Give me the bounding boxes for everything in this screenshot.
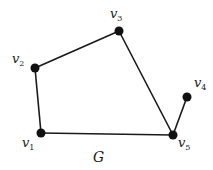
node-v3 xyxy=(115,27,124,36)
node-label-v1: v1 xyxy=(22,135,34,152)
node-v1 xyxy=(37,129,46,138)
edge-v3-v5 xyxy=(119,31,173,135)
node-v4 xyxy=(183,93,192,102)
node-label-v3: v3 xyxy=(110,6,122,23)
graph-title: G xyxy=(93,149,104,165)
node-v5 xyxy=(169,131,178,140)
node-label-v2: v2 xyxy=(12,51,24,68)
edge-v1-v5 xyxy=(41,133,173,135)
edge-v4-v5 xyxy=(173,97,187,135)
node-label-v5: v5 xyxy=(178,135,190,152)
edge-v2-v3 xyxy=(35,31,119,68)
graph-diagram: v1v2v3v4v5 G xyxy=(0,0,213,170)
node-label-v4: v4 xyxy=(194,75,206,92)
edge-v1-v2 xyxy=(35,68,41,133)
node-v2 xyxy=(31,64,40,73)
